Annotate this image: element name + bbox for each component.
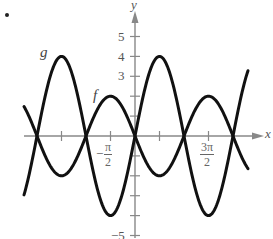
- y-tick-label-neg5: −5: [111, 229, 125, 239]
- y-axis-arrow-icon: [132, 11, 139, 23]
- x-tick-label-3pi-half: 3π 2: [200, 141, 214, 168]
- y-tick-label-4: 4: [118, 50, 125, 63]
- fraction-numerator: π: [104, 141, 112, 155]
- y-tick-label-5: 5: [118, 30, 125, 43]
- x-axis-arrow-icon: [252, 133, 264, 140]
- curve-label-f: f: [93, 88, 97, 103]
- fraction-numerator: 3π: [200, 141, 214, 155]
- x-tick-sign-neg-pi-half: −: [96, 147, 103, 160]
- curve-label-g: g: [40, 45, 48, 60]
- x-tick-label-neg-pi-half: π 2: [104, 141, 112, 168]
- y-axis-label: y: [131, 0, 137, 11]
- x-axis-label: x: [265, 127, 271, 140]
- graph-plot: [0, 0, 273, 239]
- fraction-denominator: 2: [104, 155, 112, 168]
- fraction-denominator: 2: [200, 155, 214, 168]
- y-tick-label-3: 3: [118, 69, 125, 82]
